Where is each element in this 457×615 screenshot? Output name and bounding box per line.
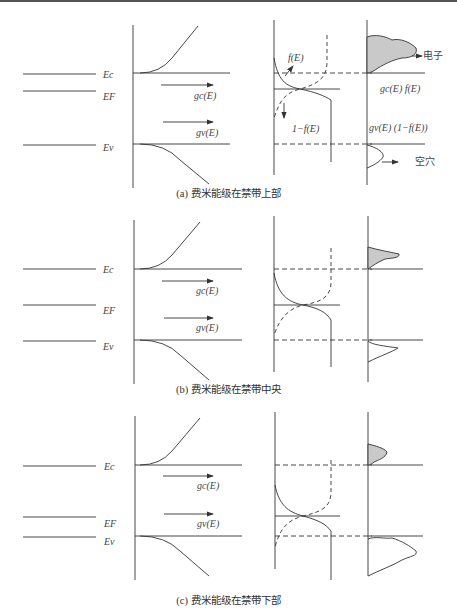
caption-a: (a) 费米能级在禁带上部 [0, 189, 457, 200]
label-gc-a: gc(E) [194, 91, 216, 101]
panel-a [23, 20, 425, 188]
label-gc-b: gc(E) [196, 286, 218, 296]
label-ef-a: EF [103, 92, 115, 102]
panel-c [23, 412, 423, 580]
label-gcf-a: gc(E) f(E) [380, 84, 420, 94]
label-gv-c: gv(E) [197, 519, 219, 529]
label-gv1f-a: gv(E) (1−f(E)) [369, 123, 428, 133]
label-ef-b: EF [103, 306, 115, 316]
label-gc-c: gc(E) [197, 481, 219, 491]
label-one-minus-f-a: 1−f(E) [292, 124, 319, 134]
label-ev-a: Ev [103, 143, 114, 153]
caption-b: (b) 费米能级在禁带中央 [0, 385, 457, 396]
label-ec-a: Ec [103, 70, 114, 80]
label-gv-b: gv(E) [196, 323, 218, 333]
panel-b [23, 216, 423, 384]
label-ef-c: EF [104, 519, 116, 529]
label-hole: 空穴 [415, 157, 435, 167]
label-ev-c: Ev [104, 537, 115, 547]
caption-c: (c) 费米能级在禁带下部 [0, 596, 457, 607]
label-ec-c: Ec [104, 462, 115, 472]
label-ec-b: Ec [103, 265, 114, 275]
label-gv-a: gv(E) [196, 128, 218, 138]
label-electron: 电子 [423, 51, 443, 61]
label-ev-b: Ev [103, 342, 114, 352]
label-fe-a: f(E) [288, 53, 304, 63]
